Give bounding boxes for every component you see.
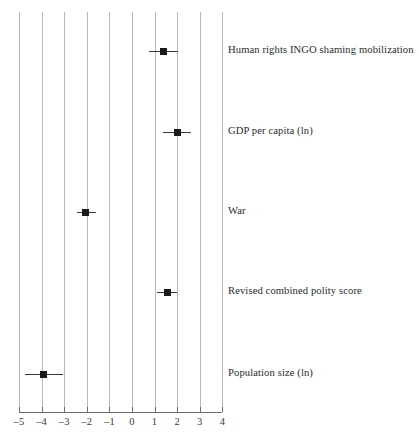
gridline xyxy=(109,12,110,409)
point-marker[interactable] xyxy=(40,371,47,378)
x-axis-tick xyxy=(64,407,65,412)
gridline xyxy=(42,12,43,409)
x-axis-tick xyxy=(200,407,201,412)
x-axis-tick xyxy=(177,407,178,412)
coefficient-plot: –5–4–3–2–101234Human rights INGO shaming… xyxy=(0,0,419,446)
category-label: Revised combined polity score xyxy=(228,285,362,296)
category-label: Population size (ln) xyxy=(228,367,313,378)
point-marker[interactable] xyxy=(82,209,89,216)
point-marker[interactable] xyxy=(160,48,167,55)
category-label: Human rights INGO shaming mobilization xyxy=(228,44,414,55)
x-axis-tick-label: 0 xyxy=(120,416,144,427)
gridline xyxy=(222,12,223,409)
x-axis-tick xyxy=(19,407,20,412)
x-axis-line xyxy=(19,412,222,413)
x-axis-tick xyxy=(87,407,88,412)
x-axis-tick-label: 3 xyxy=(188,416,212,427)
x-axis-tick-label: –3 xyxy=(52,416,76,427)
x-axis-tick-label: –5 xyxy=(7,416,31,427)
gridline xyxy=(155,12,156,409)
point-marker[interactable] xyxy=(174,129,181,136)
x-axis-tick-label: –2 xyxy=(75,416,99,427)
gridline xyxy=(64,12,65,409)
x-axis-tick-label: –4 xyxy=(30,416,54,427)
x-axis-tick xyxy=(155,407,156,412)
x-axis-tick xyxy=(109,407,110,412)
gridline xyxy=(177,12,178,409)
category-label: War xyxy=(228,205,246,216)
point-marker[interactable] xyxy=(164,289,171,296)
x-axis-tick xyxy=(132,407,133,412)
x-axis-tick xyxy=(222,407,223,412)
category-label: GDP per capita (ln) xyxy=(228,125,313,136)
x-axis-tick xyxy=(42,407,43,412)
x-axis-tick-label: 2 xyxy=(165,416,189,427)
plot-area: –5–4–3–2–101234Human rights INGO shaming… xyxy=(0,0,419,446)
x-axis-tick-label: –1 xyxy=(97,416,121,427)
gridline xyxy=(19,12,20,409)
x-axis-tick-label: 1 xyxy=(143,416,167,427)
gridline xyxy=(132,12,133,409)
x-axis-tick-label: 4 xyxy=(210,416,234,427)
gridline xyxy=(200,12,201,409)
